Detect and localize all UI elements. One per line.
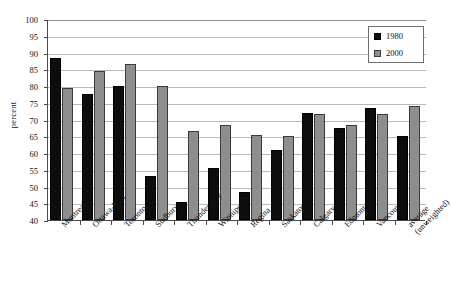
chart-legend: 1980 2000 (368, 26, 424, 63)
bar-group (174, 19, 206, 220)
y-tick-label-100: 100 (10, 16, 38, 25)
bar-group (48, 19, 80, 220)
y-tick-label-50: 50 (10, 184, 38, 193)
bar-group (269, 19, 301, 220)
y-tick-label-85: 85 (10, 66, 38, 75)
y-tick-label-90: 90 (10, 50, 38, 59)
y-tick-label-70: 70 (10, 117, 38, 126)
bar-2000-montreal (62, 88, 73, 220)
bar-2000-edmonton (346, 125, 357, 220)
bar-2000-thunder-bay (188, 131, 199, 220)
bar-1980-edmonton (334, 128, 345, 220)
bar-1980-montreal (50, 58, 61, 220)
legend-item-2000: 2000 (374, 47, 403, 59)
bar-group (237, 19, 269, 220)
bar-2000-regina (251, 135, 262, 220)
y-tick-label-75: 75 (10, 100, 38, 109)
y-tick-label-60: 60 (10, 150, 38, 159)
x-axis-labels: MontrealOttawa-HullTorontoSudburyThunder… (47, 222, 431, 283)
bar-group (143, 19, 175, 220)
y-tick-label-80: 80 (10, 83, 38, 92)
bar-group (332, 19, 364, 220)
bar-group (111, 19, 143, 220)
bar-group (206, 19, 238, 220)
bar-2000-ottawa-hull (94, 71, 105, 220)
bar-2000-toronto (125, 64, 136, 220)
legend-item-1980: 1980 (374, 30, 403, 42)
legend-swatch-2000-icon (374, 50, 381, 57)
bar-1980-sudbury (145, 176, 156, 220)
bar-group (300, 19, 332, 220)
y-tick-label-45: 45 (10, 200, 38, 209)
bar-2000-sudbury (157, 86, 168, 220)
bar-2000-average-unweighted- (409, 106, 420, 220)
legend-label-2000: 2000 (386, 49, 403, 58)
bar-2000-winnipeg (220, 125, 231, 220)
y-tick-label-95: 95 (10, 33, 38, 42)
y-tick-label-40: 40 (10, 217, 38, 226)
y-tick-label-55: 55 (10, 167, 38, 176)
bar-1980-saskatoon (271, 150, 282, 220)
bar-group (80, 19, 112, 220)
legend-swatch-1980-icon (374, 33, 381, 40)
bar-2000-calgary (314, 114, 325, 220)
y-tick-label-65: 65 (10, 133, 38, 142)
bar-2000-vancouver (377, 114, 388, 220)
legend-label-1980: 1980 (386, 32, 403, 41)
